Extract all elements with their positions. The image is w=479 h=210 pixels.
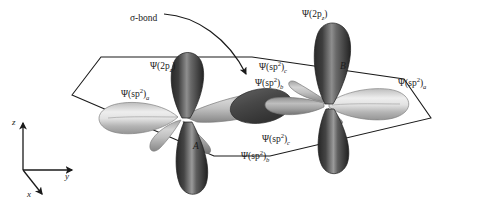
psi-open: (sp — [248, 151, 260, 161]
label-psi-sp2-a-left: Ψ(sp2)a — [121, 88, 149, 102]
orbital-b-2pz-lower — [318, 109, 349, 174]
psi-open: (2p — [309, 9, 322, 19]
orbital-a-2pz-upper — [171, 52, 203, 118]
label-psi-2pz-left: Ψ(2pz) — [150, 62, 175, 73]
psi-sub: b — [280, 83, 283, 90]
label-psi-sp2-b-top: Ψ(sp2)b — [255, 77, 283, 91]
sigma-bond-label: σ-bond — [130, 14, 157, 24]
psi-symbol: Ψ — [121, 89, 128, 99]
psi-symbol: Ψ — [398, 78, 405, 88]
psi-open: (sp — [266, 62, 278, 72]
orbital-b-sp2-a — [329, 89, 409, 120]
psi-open: (sp — [405, 78, 417, 88]
psi-symbol: Ψ — [302, 9, 309, 19]
psi-sub: c — [284, 67, 287, 74]
diagram-canvas — [0, 0, 479, 210]
psi-open: (sp — [262, 78, 274, 88]
psi-sub: b — [266, 156, 269, 163]
label-psi-sp2-c-top: Ψ(sp2)c — [259, 61, 287, 75]
atom-label-b: B — [340, 62, 346, 72]
psi-sub: a — [146, 94, 149, 101]
atom-b-orbitals — [265, 23, 409, 174]
psi-symbol: Ψ — [150, 61, 157, 71]
axis-triad — [23, 123, 72, 194]
psi-open: (sp — [128, 89, 140, 99]
psi-close: ) — [324, 9, 327, 19]
psi-close: ) — [172, 61, 175, 71]
label-psi-sp2-c-bottom: Ψ(sp2)c — [262, 133, 290, 147]
psi-symbol: Ψ — [259, 62, 266, 72]
psi-symbol: Ψ — [262, 134, 269, 144]
psi-sub: a — [423, 83, 426, 90]
axis-label-x: x — [27, 190, 31, 199]
orbital-a-2pz-lower — [176, 122, 208, 194]
psi-open: (2p — [157, 61, 170, 71]
axis-label-z: z — [12, 118, 16, 127]
orbital-diagram-figure: σ-bond Ψ(2pz) Ψ(2pz) Ψ(sp2)c Ψ(sp2)b Ψ(s… — [0, 0, 479, 210]
label-psi-sp2-a-right: Ψ(sp2)a — [398, 77, 426, 91]
axis-label-y: y — [65, 172, 69, 181]
label-psi-sp2-b-bottom: Ψ(sp2)b — [241, 150, 269, 164]
psi-open: (sp — [269, 134, 281, 144]
psi-sub: c — [287, 139, 290, 146]
label-psi-2pz-right: Ψ(2pz) — [302, 10, 327, 21]
psi-symbol: Ψ — [241, 151, 248, 161]
atom-label-a: A — [193, 142, 199, 152]
psi-symbol: Ψ — [255, 78, 262, 88]
